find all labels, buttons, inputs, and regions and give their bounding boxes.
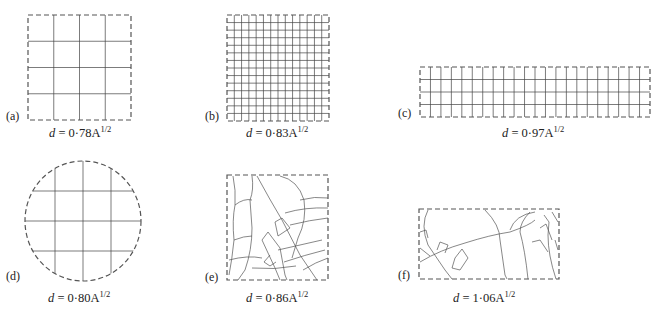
- panel-d-formula: d = 0·80A1/2: [48, 289, 110, 306]
- panel-e-label: (e): [205, 270, 218, 285]
- figure-canvas: [0, 0, 656, 315]
- panel-a-diagram: [28, 15, 131, 120]
- panel-f-formula: d = 1·06A1/2: [453, 289, 515, 306]
- panel-b-formula: d = 0·83A1/2: [246, 124, 308, 141]
- panel-c-label: (c): [398, 106, 411, 121]
- panel-e-formula: d = 0·86A1/2: [246, 289, 308, 306]
- panel-e-diagram: [227, 175, 328, 280]
- panel-c-diagram: [420, 67, 650, 117]
- panel-b-label: (b): [205, 109, 219, 124]
- panel-f-diagram: [419, 209, 559, 279]
- panel-b-diagram: [227, 15, 329, 121]
- panel-d-label: (d): [6, 269, 20, 284]
- panel-d-diagram: [20, 160, 150, 290]
- panel-a-label: (a): [6, 109, 19, 124]
- panel-a-formula: d = 0·78A1/2: [49, 124, 111, 141]
- panel-f-label: (f): [398, 268, 410, 283]
- panel-c-formula: d = 0·97A1/2: [502, 124, 564, 141]
